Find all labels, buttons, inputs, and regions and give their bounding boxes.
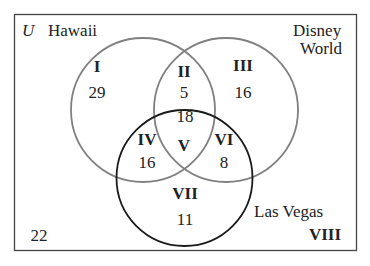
- venn-diagram: U Hawaii Disney World Las Vegas I 29 II …: [0, 0, 370, 266]
- las-vegas-label: Las Vegas: [254, 203, 323, 220]
- region-iii-label: III: [233, 57, 253, 74]
- region-viii-label: VIII: [309, 226, 341, 243]
- region-iv-label: IV: [138, 131, 157, 148]
- disney-label-line2: World: [300, 40, 342, 57]
- region-iv-value: 16: [139, 154, 156, 171]
- disney-label-line1: Disney: [293, 22, 341, 39]
- region-vi-value: 8: [220, 154, 229, 171]
- region-vii-label: VII: [172, 185, 198, 202]
- region-ii-value: 5: [180, 84, 189, 101]
- region-vii-value: 11: [177, 211, 193, 228]
- hawaii-label: Hawaii: [48, 22, 97, 39]
- region-i-value: 29: [89, 84, 106, 101]
- region-ii-label: II: [177, 63, 190, 80]
- region-i-label: I: [94, 58, 101, 75]
- region-viii-value: 22: [31, 227, 48, 244]
- region-v-value: 18: [177, 108, 194, 125]
- universe-label: U: [22, 22, 34, 39]
- region-iii-value: 16: [235, 84, 252, 101]
- region-vi-label: VI: [215, 131, 234, 148]
- region-v-label: V: [178, 137, 190, 154]
